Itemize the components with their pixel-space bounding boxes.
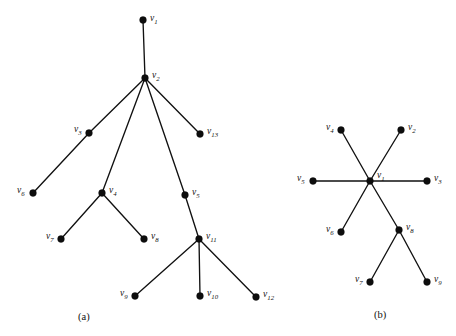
vertex-label-v8: v8 [151,232,159,244]
graph-edge-v1-v8 [370,181,399,230]
vertex-label-subscript: 13 [211,131,218,138]
vertex-label-v1: v1 [377,171,385,183]
vertex-label-subscript: 2 [412,127,416,134]
graph-vertex-v5 [310,178,317,185]
graph-edge-v5-v11 [185,195,199,239]
vertex-label-subscript: 3 [78,129,82,136]
graph-vertex-v9 [424,279,431,286]
graph-edge-v1-v2 [143,20,145,78]
vertex-label-v3: v3 [74,125,82,137]
graph-vertex-v4 [99,190,106,197]
figure-container: v1v2v3v4v5v6v7v8v9v10v11v12v13v1v2v3v4v5… [0,0,456,336]
vertex-label-v2: v2 [408,123,416,135]
vertex-label-v4: v4 [109,186,117,198]
graph-edge-v2-v4 [102,78,145,193]
graph-vertex-v12 [253,294,260,301]
graph-edge-v1-v6 [341,181,370,232]
graph-edge-v8-v9 [399,230,427,282]
graph-vertex-v7 [58,236,65,243]
vertex-label-v12: v12 [263,290,274,302]
edges-layer [33,20,427,297]
graph-edge-v3-v6 [33,133,89,193]
graph-vertex-v3 [86,130,93,137]
vertex-label-v8: v8 [406,223,414,235]
graph-drawing-canvas [0,0,456,336]
graph-vertex-v6 [30,190,37,197]
vertex-label-subscript: 7 [359,279,363,286]
vertex-label-subscript: 8 [155,236,159,243]
vertex-label-v5: v5 [297,174,305,186]
graph-edge-v11-v9 [135,239,199,296]
graph-vertex-v1 [140,17,147,24]
vertex-label-v7: v7 [355,275,363,287]
graph-vertex-v11 [196,236,203,243]
graph-vertex-v1 [367,178,374,185]
vertex-label-subscript: 4 [113,190,117,197]
graph-edge-v11-v10 [199,239,200,296]
vertex-label-subscript: 11 [210,236,217,243]
vertex-label-v6: v6 [17,186,25,198]
graph-vertex-v2 [398,127,405,134]
graph-vertex-v2 [142,75,149,82]
graph-edge-v4-v7 [61,193,102,239]
vertex-label-subscript: 2 [156,75,160,82]
vertex-label-v11: v11 [206,232,217,244]
caption-panel-b: (b) [374,310,386,321]
graph-vertex-v3 [424,178,431,185]
graph-vertex-v10 [197,293,204,300]
nodes-layer [30,17,431,301]
vertex-label-subscript: 3 [438,178,442,185]
vertex-label-subscript: 12 [267,294,274,301]
graph-vertex-v4 [338,127,345,134]
vertex-label-v6: v6 [326,225,334,237]
vertex-label-v13: v13 [207,127,218,139]
vertex-label-subscript: 10 [211,293,218,300]
vertex-label-v5: v5 [192,188,200,200]
vertex-label-v3: v3 [434,174,442,186]
vertex-label-subscript: 4 [330,127,334,134]
vertex-label-subscript: 8 [410,227,414,234]
vertex-label-subscript: 9 [124,293,128,300]
graph-edge-v4-v8 [102,193,144,239]
graph-vertex-v13 [197,131,204,138]
graph-vertex-v8 [396,227,403,234]
graph-vertex-v6 [338,229,345,236]
vertex-label-subscript: 7 [50,236,54,243]
vertex-label-subscript: 1 [154,18,158,25]
vertex-label-subscript: 1 [381,175,385,182]
graph-edge-v8-v7 [370,230,399,282]
graph-vertex-v8 [141,236,148,243]
graph-edge-v1-v2 [370,130,401,181]
vertex-label-subscript: 5 [301,178,305,185]
vertex-label-v9: v9 [120,289,128,301]
graph-edge-v2-v3 [89,78,145,133]
vertex-label-v4: v4 [326,123,334,135]
vertex-label-subscript: 5 [196,192,200,199]
vertex-label-v9: v9 [434,275,442,287]
vertex-label-subscript: 9 [438,279,442,286]
vertex-label-v2: v2 [152,71,160,83]
vertex-label-subscript: 6 [330,229,334,236]
graph-edge-v1-v4 [341,130,370,181]
caption-panel-a: (a) [78,312,90,323]
vertex-label-v10: v10 [207,289,218,301]
graph-edge-v2-v5 [145,78,185,195]
graph-vertex-v7 [367,279,374,286]
vertex-label-subscript: 6 [21,190,25,197]
vertex-label-v7: v7 [46,232,54,244]
graph-vertex-v9 [132,293,139,300]
vertex-label-v1: v1 [150,14,158,26]
graph-edge-v2-v13 [145,78,200,134]
graph-vertex-v5 [182,192,189,199]
